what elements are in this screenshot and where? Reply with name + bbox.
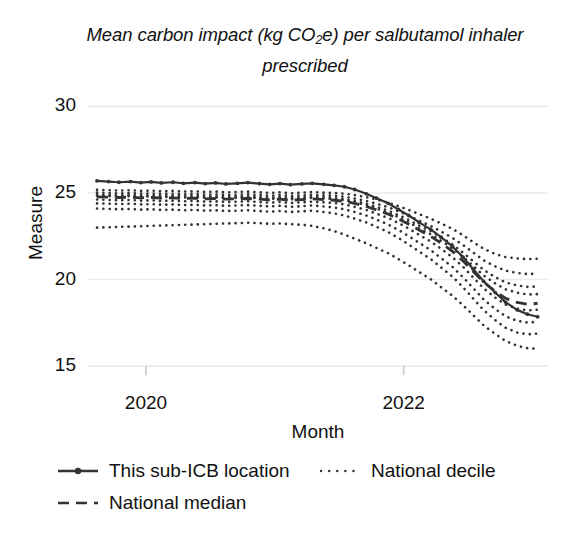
legend-label-national-median: National median — [109, 492, 246, 514]
legend-key-dotted-icon — [318, 462, 362, 480]
data-point-marker — [536, 315, 540, 319]
data-point-marker — [257, 182, 261, 186]
data-point-marker — [364, 192, 368, 196]
data-point-marker — [332, 183, 336, 187]
legend-key-solid-marker-icon — [56, 462, 100, 480]
data-point-marker — [525, 312, 529, 316]
legend-row-2: National median — [56, 487, 556, 519]
data-point-marker — [268, 182, 272, 186]
data-point-marker — [236, 181, 240, 185]
series-lines — [95, 179, 539, 349]
data-point-marker — [193, 181, 197, 185]
legend-row-1: This sub-ICB location National decile — [56, 455, 556, 487]
data-point-marker — [300, 182, 304, 186]
data-point-marker — [375, 196, 379, 200]
data-point-marker — [129, 180, 133, 184]
legend-item-national-decile[interactable]: National decile — [318, 460, 496, 482]
series-line — [97, 200, 538, 311]
data-point-marker — [95, 179, 99, 183]
chart-legend: This sub-ICB location National decile Na… — [56, 455, 556, 519]
data-point-marker — [107, 180, 111, 184]
data-point-marker — [504, 300, 508, 304]
chart-figure: Mean carbon impact (kg CO2e) per salbuta… — [0, 0, 570, 541]
legend-label-this-sub-icb-location: This sub-ICB location — [109, 460, 290, 482]
data-point-marker — [343, 185, 347, 189]
data-point-marker — [288, 183, 292, 187]
x-axis-title: Month — [88, 421, 548, 443]
legend-item-this-sub-icb-location[interactable]: This sub-ICB location — [56, 460, 318, 482]
data-point-marker — [171, 180, 175, 184]
x-tick-marks — [146, 366, 404, 375]
legend-key-dashed-icon — [56, 494, 100, 512]
legend-label-national-decile: National decile — [371, 460, 496, 482]
y-tick-label: 15 — [36, 354, 76, 376]
data-point-marker — [278, 182, 282, 186]
data-point-marker — [160, 181, 164, 185]
x-tick-label: 2022 — [364, 392, 444, 414]
gridlines — [88, 106, 548, 366]
y-tick-label: 30 — [36, 94, 76, 116]
data-point-marker — [246, 181, 250, 185]
y-tick-label: 25 — [36, 181, 76, 203]
data-point-marker — [181, 181, 185, 185]
data-point-marker — [149, 180, 153, 184]
data-point-marker — [322, 182, 326, 186]
data-point-marker — [224, 182, 228, 186]
data-point-marker — [310, 181, 314, 185]
data-point-marker — [214, 181, 218, 185]
x-tick-label: 2020 — [106, 392, 186, 414]
legend-item-national-median[interactable]: National median — [56, 492, 318, 514]
data-point-marker — [353, 188, 357, 192]
data-point-marker — [482, 279, 486, 283]
data-point-marker — [493, 291, 497, 295]
data-point-marker — [203, 182, 207, 186]
data-point-marker — [139, 181, 143, 185]
data-point-marker — [117, 180, 121, 184]
y-tick-label: 20 — [36, 268, 76, 290]
series-line — [97, 197, 538, 304]
